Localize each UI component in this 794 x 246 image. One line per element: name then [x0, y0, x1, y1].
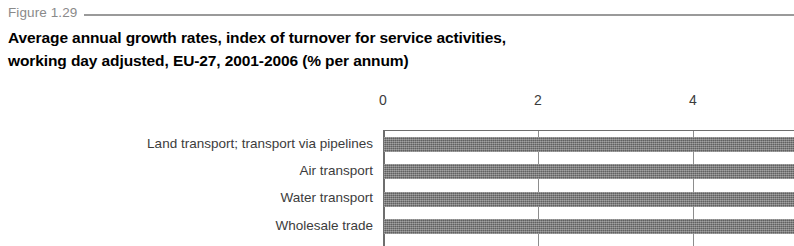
bar — [384, 192, 794, 207]
x-axis-tick-labels: 024 — [0, 92, 794, 114]
plot-area — [383, 130, 794, 246]
bar — [384, 164, 794, 179]
x-tick-label: 2 — [534, 92, 542, 108]
category-label: Land transport; transport via pipelines — [0, 136, 378, 152]
category-label: Water transport — [0, 190, 378, 206]
category-label: Wholesale trade — [0, 218, 378, 234]
figure-title-line-2: working day adjusted, EU-27, 2001-2006 (… — [8, 49, 768, 72]
figure-title: Average annual growth rates, index of tu… — [8, 26, 768, 72]
x-tick-label: 4 — [689, 92, 697, 108]
figure-title-line-1: Average annual growth rates, index of tu… — [8, 26, 768, 49]
bar-chart: 024 Land transport; transport via pipeli… — [0, 92, 794, 246]
caption-divider-rule — [84, 14, 794, 16]
bar — [384, 137, 794, 152]
figure-number: Figure 1.29 — [8, 5, 84, 20]
category-axis-labels: Land transport; transport via pipelinesA… — [0, 130, 378, 246]
figure-caption: Figure 1.29 — [8, 2, 794, 22]
x-tick-label: 0 — [379, 92, 387, 108]
category-label: Air transport — [0, 163, 378, 179]
bar — [384, 219, 794, 234]
